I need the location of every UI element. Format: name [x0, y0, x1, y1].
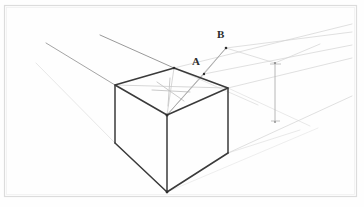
point-label-b: B	[217, 29, 224, 40]
point-label-a: A	[192, 56, 200, 67]
sketch-canvas: A B	[0, 0, 364, 207]
perspective-cube-drawing	[0, 0, 364, 207]
paper-background	[0, 0, 364, 207]
